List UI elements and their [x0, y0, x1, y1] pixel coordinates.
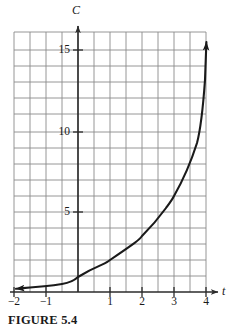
- graph-svg: [0, 0, 233, 305]
- figure-caption: FIGURE 5.4: [8, 313, 77, 328]
- x-tick-label-2: 2: [132, 296, 152, 308]
- graph-plot-area: 15 10 5 −2 −1 1 2 3 4 C t: [0, 0, 233, 305]
- x-tick-label-4: 4: [196, 296, 216, 308]
- y-tick-label-5: 5: [48, 206, 70, 218]
- y-tick-label-15: 15: [48, 44, 70, 56]
- plot-background: [0, 0, 233, 305]
- x-tick-label-minus2: −2: [4, 296, 24, 308]
- x-tick-label-3: 3: [164, 296, 184, 308]
- figure-container: 15 10 5 −2 −1 1 2 3 4 C t FIGURE 5.4: [0, 0, 233, 335]
- y-axis-label: C: [72, 4, 80, 16]
- curve-left-arrow: [16, 288, 24, 289]
- x-axis-label: t: [222, 285, 225, 297]
- y-tick-label-10: 10: [48, 126, 70, 138]
- x-tick-label-minus1: −1: [36, 296, 56, 308]
- x-tick-label-1: 1: [100, 296, 120, 308]
